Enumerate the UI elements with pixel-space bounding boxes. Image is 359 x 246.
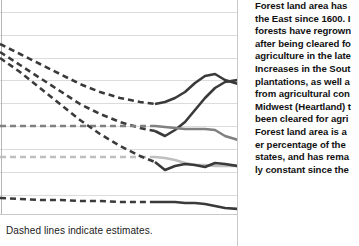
description-line: from agricultural con (250, 88, 359, 101)
series-line-north-region-estimated (0, 44, 155, 104)
description-line: ly constant since the (250, 164, 359, 177)
description-line: Increases in the Sout (250, 63, 359, 76)
description-line: Forest land area is a (250, 126, 359, 139)
description-line: agriculture in the late (250, 50, 359, 63)
description-text-panel: Forest land area hasthe East since 1600.… (250, 0, 359, 246)
legend-box: Dashed lines indicate estimates. (0, 214, 238, 246)
description-line: Forest land area has (250, 0, 359, 13)
description-line: been cleared for agri (250, 113, 359, 126)
description-line: states, and has rema (250, 151, 359, 164)
series-line-rocky-mountain-region-actual (155, 126, 238, 140)
series-line-south-region-estimated (0, 52, 155, 131)
series-line-bottom-series-actual (155, 202, 238, 209)
description-line: Midwest (Heartland) t (250, 101, 359, 114)
screenshot-root: Dashed lines indicate estimates. Forest … (0, 0, 359, 246)
series-line-heartland-region-estimated (0, 58, 155, 162)
forest-land-area-chart: Dashed lines indicate estimates. (0, 0, 239, 246)
description-line: the East since 1600. I (250, 13, 359, 26)
plot-area (0, 0, 238, 214)
description-line: forests have regrown (250, 25, 359, 38)
description-line: after being cleared fo (250, 38, 359, 51)
series-line-north-region-actual (155, 74, 238, 104)
series-lines (0, 0, 238, 214)
series-line-bottom-series-estimated (0, 198, 155, 202)
legend-note: Dashed lines indicate estimates. (0, 225, 153, 236)
description-line: plantations, as well a (250, 76, 359, 89)
description-line: er percentage of the (250, 139, 359, 152)
